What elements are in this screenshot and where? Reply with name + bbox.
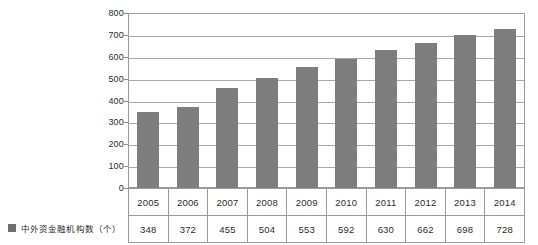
table-cell-value: 662 [406, 216, 446, 243]
bar-slot [128, 13, 168, 188]
bar-chart-figure: 8007006005004003002001000 20052006200720… [0, 0, 538, 245]
bar [216, 88, 238, 188]
bar-slot [168, 13, 208, 188]
bar-slot [207, 13, 247, 188]
bar [296, 67, 318, 188]
bar [137, 112, 159, 188]
y-tick-label: 600 [108, 52, 124, 62]
table-cell-year: 2007 [208, 189, 248, 216]
y-tick-label: 200 [108, 139, 124, 149]
bar-slot [366, 13, 406, 188]
bar [454, 35, 476, 188]
y-axis: 8007006005004003002001000 [96, 13, 124, 188]
y-tick-label: 100 [108, 161, 124, 171]
y-tick-label: 400 [108, 96, 124, 106]
table-cell-year: 2013 [445, 189, 485, 216]
y-tick-label: 800 [108, 8, 124, 18]
bar-slot [485, 13, 525, 188]
table-cell-value: 698 [445, 216, 485, 243]
table-cell-year: 2005 [129, 189, 169, 216]
bar [335, 59, 357, 189]
table-cell-year: 2010 [326, 189, 366, 216]
y-tick-label: 500 [108, 74, 124, 84]
bar-slot [287, 13, 327, 188]
legend: 中外资金融机构数（个） [8, 215, 126, 241]
table-cell-year: 2012 [406, 189, 446, 216]
bars-layer [128, 13, 525, 188]
table-row-years: 2005200620072008200920102011201220132014 [129, 189, 525, 216]
table-cell-year: 2006 [168, 189, 208, 216]
y-tick-label: 700 [108, 30, 124, 40]
bar [375, 50, 397, 188]
table-cell-value: 728 [485, 216, 525, 243]
bar-slot [406, 13, 446, 188]
table-cell-value: 372 [168, 216, 208, 243]
bar [256, 78, 278, 188]
bar-slot [327, 13, 367, 188]
table-cell-value: 455 [208, 216, 248, 243]
table-cell-year: 2014 [485, 189, 525, 216]
table-row-values: 348372455504553592630662698728 [129, 216, 525, 243]
bar [177, 107, 199, 188]
table-cell-value: 348 [129, 216, 169, 243]
bar-slot [247, 13, 287, 188]
bar [494, 29, 516, 188]
data-table: 2005200620072008200920102011201220132014… [128, 188, 525, 243]
plot-wrapper [128, 13, 525, 188]
table-cell-value: 553 [287, 216, 327, 243]
bar-slot [446, 13, 486, 188]
table-cell-value: 630 [366, 216, 406, 243]
table-cell-year: 2011 [366, 189, 406, 216]
legend-swatch-icon [8, 224, 16, 232]
table-cell-year: 2008 [247, 189, 287, 216]
table-cell-value: 592 [326, 216, 366, 243]
table-cell-year: 2009 [287, 189, 327, 216]
legend-label: 中外资金融机构数（个） [21, 222, 121, 234]
bar [415, 43, 437, 188]
y-tick-label: 300 [108, 117, 124, 127]
table-cell-value: 504 [247, 216, 287, 243]
